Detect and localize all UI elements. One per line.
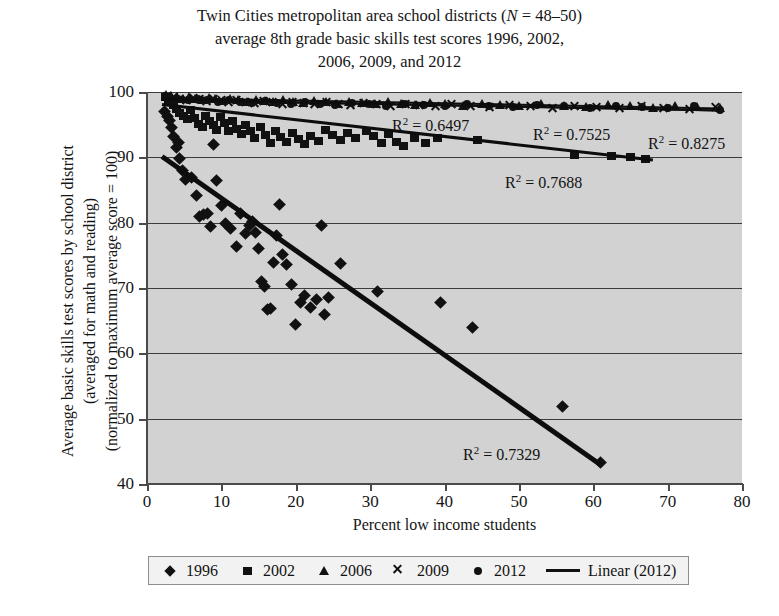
x-tick-mark bbox=[445, 484, 447, 491]
y-tick-mark bbox=[139, 92, 147, 94]
square-marker bbox=[237, 130, 246, 138]
y-axis-title-line-1: Average basic skills test scores by scho… bbox=[57, 91, 79, 511]
y-tick-mark bbox=[139, 353, 147, 355]
x-tick-mark bbox=[221, 484, 223, 491]
square-marker bbox=[238, 564, 256, 578]
x-tick-label: 40 bbox=[423, 492, 467, 512]
y-axis-title-line-2: (averaged for math and reading) bbox=[79, 91, 101, 511]
square-marker bbox=[266, 139, 275, 147]
gridline bbox=[147, 92, 742, 93]
r-squared-label: R2 = 0.7329 bbox=[463, 444, 540, 464]
chart-title-line-2: average 8th grade basic skills test scor… bbox=[0, 27, 779, 50]
triangle-marker-glyph bbox=[319, 566, 329, 575]
x-tick-label: 30 bbox=[348, 492, 392, 512]
y-tick-mark bbox=[139, 223, 147, 225]
x-tick-mark bbox=[593, 484, 595, 491]
square-marker bbox=[282, 138, 291, 146]
x-tick-mark bbox=[742, 484, 744, 491]
x-tick-label: 10 bbox=[199, 492, 243, 512]
x-tick-mark bbox=[296, 484, 298, 491]
y-tick-mark bbox=[139, 157, 147, 159]
legend-label: 2009 bbox=[417, 562, 449, 580]
legend-item-1996[interactable]: 1996 bbox=[161, 562, 218, 580]
r-squared-label: R2 = 0.7525 bbox=[533, 124, 610, 144]
x-marker-glyph bbox=[396, 565, 407, 576]
x-tick-label: 80 bbox=[720, 492, 764, 512]
square-marker bbox=[300, 140, 309, 148]
legend-item-linear-2012-[interactable]: Linear (2012) bbox=[546, 562, 676, 580]
square-marker bbox=[250, 134, 259, 142]
x-tick-mark bbox=[370, 484, 372, 491]
circle-marker-glyph bbox=[474, 567, 482, 575]
diamond-marker-glyph bbox=[164, 565, 175, 576]
square-marker bbox=[351, 134, 360, 142]
chart-title-line-3: 2006, 2009, and 2012 bbox=[0, 50, 779, 73]
gridline bbox=[147, 223, 742, 224]
square-marker bbox=[256, 123, 265, 131]
square-marker-glyph bbox=[243, 567, 252, 575]
legend-item-2002[interactable]: 2002 bbox=[238, 562, 295, 580]
line-marker bbox=[546, 569, 580, 572]
square-marker bbox=[377, 139, 386, 147]
x-axis-title: Percent low income students bbox=[147, 516, 742, 534]
y-axis-title-line-3: (normalized to maximum average score = 1… bbox=[101, 91, 123, 511]
diamond-marker bbox=[161, 564, 179, 578]
square-marker bbox=[336, 136, 345, 144]
r-squared-label: R2 = 0.6497 bbox=[392, 115, 469, 135]
square-marker bbox=[212, 126, 221, 134]
legend-label: Linear (2012) bbox=[588, 562, 676, 580]
legend-label: 1996 bbox=[186, 562, 218, 580]
r-squared-label: R2 = 0.8275 bbox=[648, 133, 725, 153]
square-marker bbox=[399, 142, 408, 150]
x-tick-mark bbox=[147, 484, 149, 491]
legend-item-2009[interactable]: 2009 bbox=[392, 562, 449, 580]
x-marker bbox=[392, 564, 410, 578]
y-tick-mark bbox=[139, 484, 147, 486]
x-tick-label: 70 bbox=[646, 492, 690, 512]
x-tick-label: 50 bbox=[497, 492, 541, 512]
legend-item-2006[interactable]: 2006 bbox=[315, 562, 372, 580]
x-tick-mark bbox=[519, 484, 521, 491]
chart-title: Twin Cities metropolitan area school dis… bbox=[0, 4, 779, 73]
square-marker bbox=[421, 139, 430, 147]
gridline bbox=[147, 419, 742, 420]
y-tick-mark bbox=[139, 419, 147, 421]
legend-label: 2006 bbox=[340, 562, 372, 580]
n-italic: N bbox=[507, 6, 518, 25]
legend-label: 2002 bbox=[263, 562, 295, 580]
x-tick-mark bbox=[668, 484, 670, 491]
r-squared-label: R2 = 0.7688 bbox=[505, 172, 582, 192]
x-tick-label: 0 bbox=[125, 492, 169, 512]
chart-title-line-1: Twin Cities metropolitan area school dis… bbox=[0, 4, 779, 27]
gridline bbox=[147, 288, 742, 289]
legend-label: 2012 bbox=[494, 562, 526, 580]
square-marker bbox=[224, 127, 233, 135]
x-tick-label: 60 bbox=[571, 492, 615, 512]
legend-item-2012[interactable]: 2012 bbox=[469, 562, 526, 580]
circle-marker bbox=[469, 564, 487, 578]
triangle-marker bbox=[315, 564, 333, 578]
square-marker bbox=[261, 131, 270, 139]
y-tick-mark bbox=[139, 288, 147, 290]
x-tick-label: 20 bbox=[274, 492, 318, 512]
scatter-chart: Twin Cities metropolitan area school dis… bbox=[0, 0, 779, 616]
square-marker bbox=[314, 137, 323, 145]
y-axis-title: Average basic skills test scores by scho… bbox=[57, 91, 123, 511]
square-marker bbox=[228, 117, 237, 125]
chart-legend: 19962002200620092012Linear (2012) bbox=[148, 556, 689, 585]
